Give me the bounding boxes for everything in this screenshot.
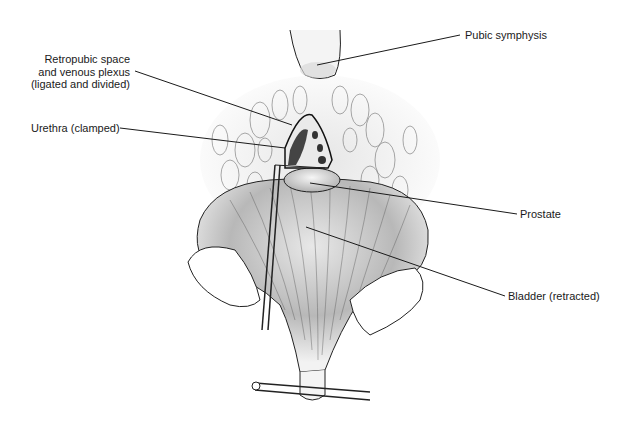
- label-retropubic-line3: (ligated and divided): [30, 78, 130, 91]
- prostate: [284, 168, 340, 192]
- label-retropubic-line1: Retropubic space: [30, 53, 130, 66]
- bladder: [188, 178, 428, 400]
- label-pubic-symphysis: Pubic symphysis: [465, 29, 547, 42]
- pubic-symphysis: [290, 30, 340, 79]
- label-retropubic-line2: and venous plexus: [30, 66, 130, 79]
- label-bladder: Bladder (retracted): [508, 290, 600, 303]
- label-retropubic-space: Retropubic space and venous plexus (liga…: [30, 53, 130, 91]
- label-urethra: Urethra (clamped): [31, 122, 120, 135]
- label-prostate: Prostate: [520, 208, 561, 221]
